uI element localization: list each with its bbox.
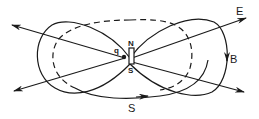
magnetic-field-label: B — [230, 53, 237, 65]
north-pole-label: N — [128, 39, 134, 48]
e-field-line-lower-left — [14, 58, 125, 91]
magnet-bar — [129, 48, 134, 64]
e-field-line-upper-left — [12, 25, 125, 58]
dipole-field-diagram: q N S E B S — [0, 0, 259, 119]
charge-label: q — [114, 46, 119, 55]
electric-field-label: E — [236, 5, 243, 17]
south-pole-label: S — [128, 66, 134, 75]
bottom-loop — [75, 60, 208, 98]
poynting-arrow — [136, 96, 148, 97]
charge-dot — [122, 55, 126, 59]
poynting-label: S — [128, 102, 135, 114]
left-outer-loop — [37, 22, 130, 93]
